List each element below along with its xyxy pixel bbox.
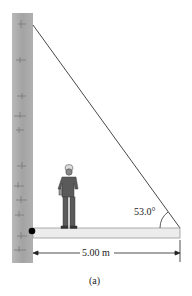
figure-caption: (a) bbox=[89, 276, 100, 286]
cable bbox=[33, 25, 180, 228]
length-label: 5.00 m bbox=[82, 248, 110, 258]
angle-label: 53.0° bbox=[134, 207, 156, 217]
wall bbox=[12, 13, 33, 263]
pivot-pin bbox=[29, 228, 36, 235]
angle-arc bbox=[160, 212, 168, 228]
worker-figure bbox=[58, 165, 78, 229]
beam bbox=[33, 228, 180, 238]
